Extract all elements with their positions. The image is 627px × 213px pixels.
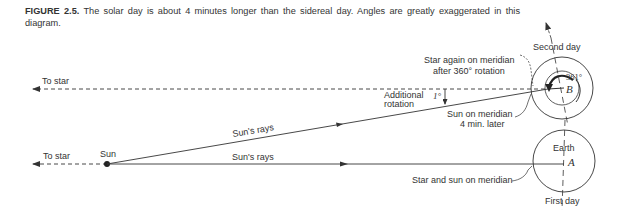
label-star-again-2: after 360° rotation (433, 66, 505, 76)
sun-ray-upper-arrow (336, 123, 343, 128)
leader-star-and-sun (512, 166, 532, 181)
label-to-star-top: To star (42, 76, 69, 86)
label-to-star-bottom: To star (43, 151, 70, 161)
sun-ray-lower-arrow (340, 162, 348, 167)
rotation-361-arc (576, 80, 580, 102)
label-sun: Sun (100, 149, 116, 159)
label-point-a: A (567, 156, 575, 168)
label-star-and-sun: Star and sun on meridian (412, 175, 513, 185)
label-second-day: Second day (533, 42, 581, 52)
rotation-361-arrowhead (545, 84, 553, 92)
meridian-line-b-top (546, 23, 551, 38)
label-sun-meridian-2: 4 min. later (460, 119, 505, 129)
solar-sidereal-diagram: To star To star Sun Sun's rays Sun's ray… (0, 0, 627, 213)
label-first-day: First day (545, 196, 580, 206)
label-point-b: B (566, 83, 573, 95)
label-361: 361° (566, 72, 582, 82)
label-star-again-1: Star again on meridian (424, 55, 515, 65)
leader-star-again (520, 55, 533, 86)
label-one-degree: 1° (433, 91, 442, 101)
label-sun-meridian-1: Sun on meridian (447, 109, 513, 119)
label-rotation: rotation (384, 99, 414, 109)
label-earth: Earth (553, 143, 575, 153)
leader-sun-meridian (515, 94, 531, 117)
label-suns-rays-lower: Sun's rays (232, 152, 274, 162)
